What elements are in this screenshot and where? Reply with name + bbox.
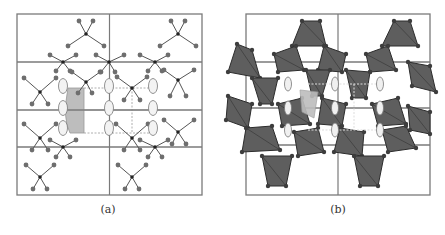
vertex-atom	[370, 102, 374, 106]
center-atom	[84, 32, 88, 36]
cation-ellipse	[105, 121, 114, 136]
vertex-atom	[300, 19, 304, 23]
atom	[113, 70, 118, 75]
bond	[132, 165, 146, 177]
vertex-atom	[364, 96, 368, 100]
vertex-atom	[382, 154, 386, 158]
center-atom	[84, 80, 88, 84]
vertex-atom	[235, 42, 239, 46]
bond	[178, 80, 186, 96]
bond	[26, 165, 40, 177]
vertex-atom	[406, 60, 410, 64]
vertex-atom	[284, 184, 288, 188]
panel-b: (b)	[222, 0, 445, 235]
vertex-atom	[344, 102, 348, 106]
vertex-atom	[406, 104, 410, 108]
atom	[160, 155, 165, 160]
center-atom	[153, 60, 157, 64]
atom	[184, 142, 189, 147]
bond	[132, 124, 148, 138]
vertex-atom	[410, 84, 414, 88]
vertex-atom	[408, 19, 412, 23]
cation-ellipse	[332, 77, 339, 91]
vertex-atom	[416, 44, 420, 48]
bond	[40, 78, 56, 92]
bond	[86, 72, 100, 82]
vertex-atom	[276, 102, 280, 106]
tetrahedron	[228, 44, 260, 78]
atom	[123, 187, 128, 192]
tetrahedron	[292, 21, 326, 46]
atom	[22, 76, 27, 81]
vertex-atom	[364, 52, 368, 56]
atom	[194, 44, 199, 49]
center-atom	[176, 32, 180, 36]
vertex-atom	[240, 150, 244, 154]
atom	[22, 122, 27, 127]
vertex-atom	[352, 154, 356, 158]
vertex-atom	[414, 146, 418, 150]
atom	[31, 187, 36, 192]
bond	[132, 77, 147, 88]
vertex-atom	[266, 184, 270, 188]
vertex-atom	[250, 48, 254, 52]
atom	[45, 187, 50, 192]
vertex-atom	[344, 52, 348, 56]
panel-a: (a)	[0, 0, 222, 235]
vertex-atom	[250, 76, 254, 80]
bond	[178, 70, 194, 80]
tetrahedron	[318, 46, 346, 72]
vertex-atom	[394, 68, 398, 72]
atom	[46, 102, 51, 107]
cation-ellipse	[59, 121, 68, 136]
bond	[116, 124, 132, 138]
cation-ellipse	[105, 101, 114, 116]
vertex-atom	[328, 68, 332, 72]
center-atom	[153, 145, 157, 149]
bond	[109, 55, 124, 62]
cation-ellipse	[149, 101, 158, 116]
caption-a: (a)	[88, 203, 128, 216]
atom	[48, 53, 53, 58]
bond	[164, 120, 178, 132]
cation-ellipse	[105, 79, 114, 94]
vertex-atom	[280, 124, 284, 128]
vertex-atom	[358, 184, 362, 188]
vertex-atom	[428, 64, 432, 68]
vertex-atom	[340, 70, 344, 74]
vertex-atom	[404, 124, 408, 128]
center-atom	[61, 60, 65, 64]
vertex-atom	[226, 94, 230, 98]
bond	[160, 34, 178, 46]
ball-and-stick-diagram	[0, 0, 222, 235]
tetrahedron	[226, 96, 252, 128]
bond	[140, 140, 155, 147]
atom	[138, 138, 143, 143]
atom	[170, 142, 175, 147]
cation-ellipse	[377, 101, 384, 115]
atom	[114, 122, 119, 127]
tetrahedron	[274, 46, 304, 72]
cation-ellipse	[59, 79, 68, 94]
vertex-atom	[226, 70, 230, 74]
atom	[48, 138, 53, 143]
bond	[140, 55, 155, 62]
atom	[184, 94, 189, 99]
center-atom	[107, 60, 111, 64]
atom	[74, 53, 79, 58]
atom	[138, 98, 143, 103]
atom	[166, 138, 171, 143]
atom	[122, 98, 127, 103]
bond	[170, 80, 178, 96]
cation-ellipse	[332, 101, 339, 115]
vertex-atom	[322, 150, 326, 154]
bond	[178, 34, 196, 46]
atom	[146, 69, 151, 74]
center-atom	[176, 78, 180, 82]
atom	[168, 94, 173, 99]
vertex-atom	[368, 70, 372, 74]
atom	[66, 44, 71, 49]
atom	[54, 76, 59, 81]
vertex-atom	[322, 44, 326, 48]
vertex-atom	[386, 150, 390, 154]
